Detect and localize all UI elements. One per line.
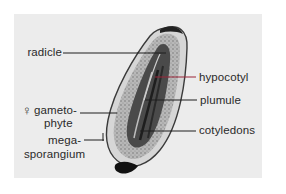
label-plumule: plumule (200, 94, 241, 107)
female-symbol-icon: ♀ (22, 104, 32, 117)
label-megasporangium-line2: sporangium (24, 148, 85, 161)
label-megasporangium-line1: mega- (48, 134, 81, 147)
seed-illustration (0, 0, 286, 194)
label-radicle: radicle (26, 46, 62, 59)
label-gametophyte-line1: gameto- (34, 104, 77, 117)
label-hypocotyl: hypocotyl (199, 71, 248, 84)
label-cotyledons: cotyledons (199, 124, 255, 137)
label-gametophyte-line2: phyte (44, 117, 73, 130)
